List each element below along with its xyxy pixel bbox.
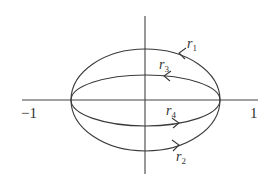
arrow-left-icon — [179, 48, 186, 59]
label-r1: r1 — [187, 36, 197, 53]
label-r4: r4 — [166, 103, 176, 120]
ellipse-paths-diagram: −1 1 r1 r3 r4 r2 — [0, 0, 272, 184]
label-r3-sub: 3 — [164, 64, 169, 74]
x-tick-label-right: 1 — [250, 105, 258, 121]
x-tick-label-left: −1 — [21, 105, 37, 121]
label-r2: r2 — [176, 149, 186, 166]
label-r2-sub: 2 — [181, 156, 186, 166]
label-r4-sub: 4 — [171, 110, 176, 120]
label-r1-sub: 1 — [192, 43, 197, 53]
label-r3: r3 — [159, 57, 169, 74]
